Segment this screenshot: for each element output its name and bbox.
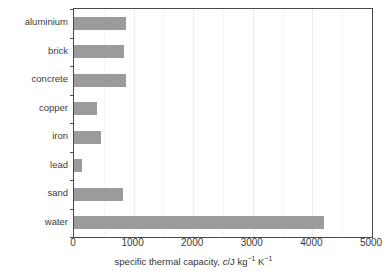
y-axis-label-copper: copper (39, 103, 68, 113)
bar-row (74, 159, 372, 172)
x-axis-label-1000: 1000 (121, 237, 143, 248)
bar-copper (74, 102, 97, 115)
bar-water (74, 216, 324, 229)
x-axis-title-prefix: specific thermal capacity, (115, 256, 223, 267)
bar-series (74, 9, 372, 237)
y-axis-label-sand: sand (47, 188, 68, 198)
bar-brick (74, 45, 124, 58)
bar-chart-figure: aluminiumbrickconcretecopperironleadsand… (0, 0, 387, 278)
bar-iron (74, 131, 101, 144)
y-axis-label-concrete: concrete (32, 74, 68, 84)
x-axis-title-unit-lead: /J kg (227, 256, 247, 267)
y-axis-label-iron: iron (52, 131, 68, 141)
plot-area (73, 8, 373, 238)
y-axis-label-brick: brick (48, 46, 68, 56)
x-axis-label-5000: 5000 (360, 237, 382, 248)
bar-sand (74, 188, 123, 201)
bar-row (74, 45, 372, 58)
x-axis-title-exponent-2: −1 (264, 255, 272, 262)
bar-concrete (74, 74, 126, 87)
bar-row (74, 188, 372, 201)
x-axis-label-3000: 3000 (241, 237, 263, 248)
bar-row (74, 131, 372, 144)
y-axis-label-aluminium: aluminium (25, 17, 68, 27)
y-axis-label-water: water (45, 217, 68, 227)
bar-row (74, 102, 372, 115)
bar-row (74, 17, 372, 30)
x-axis-label-0: 0 (70, 237, 76, 248)
bar-row (74, 216, 372, 229)
bar-aluminium (74, 17, 126, 30)
x-axis-label-2000: 2000 (181, 237, 203, 248)
bar-row (74, 74, 372, 87)
x-axis-label-4000: 4000 (300, 237, 322, 248)
y-tick-8 (70, 237, 74, 238)
bar-lead (74, 159, 82, 172)
x-axis-title: specific thermal capacity, c/J kg−1 K−1 (0, 256, 387, 268)
y-axis-label-lead: lead (50, 160, 68, 170)
